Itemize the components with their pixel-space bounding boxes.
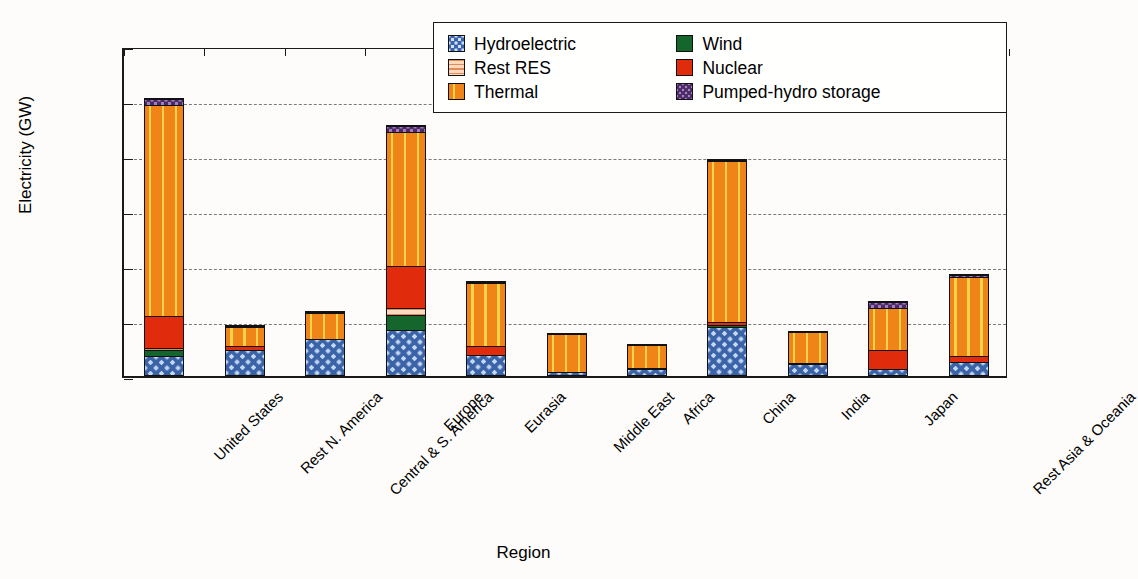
x-axis-label: Region	[0, 543, 1047, 563]
x-tick-mark	[285, 49, 286, 56]
x-tick-mark	[1009, 49, 1010, 56]
legend-swatch-wind	[676, 32, 702, 56]
legend-row: Rest RES Nuclear	[448, 56, 996, 80]
legend-swatch-thermal	[448, 80, 474, 104]
bar-segment-hydroelectric	[387, 330, 425, 375]
bar-segment-nuclear	[869, 350, 907, 370]
bar-segment-hydroelectric	[145, 356, 183, 375]
legend-label-wind: Wind	[702, 32, 996, 56]
bar-segment-thermal	[306, 313, 344, 338]
legend-swatch-nuclear	[676, 56, 702, 80]
bar[interactable]	[949, 274, 989, 376]
legend-label-rest-res: Rest RES	[474, 56, 642, 80]
category-label: Rest Asia & Oceania	[1029, 388, 1138, 497]
category-label: Rest N. America	[296, 388, 385, 477]
x-tick-mark	[365, 49, 366, 56]
bar-segment-hydroelectric	[306, 339, 344, 375]
y-tick-mark	[124, 324, 133, 325]
legend-label-hydroelectric: Hydroelectric	[474, 32, 642, 56]
bar[interactable]	[868, 301, 908, 376]
category-label: China	[759, 388, 799, 428]
category-label: Middle East	[609, 388, 676, 455]
bar[interactable]	[627, 344, 667, 376]
bar-segment-thermal	[950, 277, 988, 355]
gridline	[124, 269, 1006, 270]
legend-gap	[642, 56, 676, 80]
y-axis-label: Electricity (GW)	[16, 96, 36, 214]
bar-segment-wind	[387, 315, 425, 330]
y-tick-mark	[124, 269, 133, 270]
bar[interactable]	[144, 98, 184, 376]
y-tick-mark	[124, 214, 133, 215]
category-label: Japan	[920, 388, 961, 429]
category-label: Eurasia	[521, 388, 569, 436]
bar-segment-hydroelectric	[950, 362, 988, 375]
bar-segment-thermal	[387, 132, 425, 266]
bar-segment-nuclear	[387, 266, 425, 308]
gridline	[124, 159, 1006, 160]
legend-swatch-hydroelectric	[448, 32, 474, 56]
bar-segment-thermal	[708, 161, 746, 322]
bar-segment-thermal	[628, 345, 666, 368]
category-label: United States	[211, 388, 287, 464]
bar-segment-hydroelectric	[628, 369, 666, 375]
bar-segment-hydroelectric	[708, 327, 746, 375]
legend-label-nuclear: Nuclear	[702, 56, 996, 80]
bar[interactable]	[466, 281, 506, 376]
bar-segment-hydroelectric	[467, 355, 505, 375]
bar[interactable]	[547, 333, 587, 376]
x-tick-mark	[124, 49, 125, 56]
bar-segment-thermal	[145, 105, 183, 317]
bar-segment-hydroelectric	[548, 372, 586, 375]
bar[interactable]	[305, 311, 345, 376]
bar[interactable]	[707, 159, 747, 376]
legend-row: Hydroelectric Wind	[448, 32, 996, 56]
legend-table: Hydroelectric Wind Rest RES Nuclear Ther…	[448, 32, 996, 104]
legend-label-thermal: Thermal	[474, 80, 642, 104]
legend-label-pumped-hydro-storage: Pumped-hydro storage	[702, 80, 996, 104]
bar[interactable]	[386, 125, 426, 376]
legend-row: Thermal Pumped-hydro storage	[448, 80, 996, 104]
bar-segment-nuclear	[467, 346, 505, 356]
legend-swatch-rest-res	[448, 56, 474, 80]
y-tick-mark	[124, 159, 133, 160]
legend-gap	[642, 80, 676, 104]
y-tick-mark	[124, 104, 133, 105]
bar-segment-thermal	[789, 332, 827, 363]
bar-segment-nuclear	[145, 316, 183, 347]
bar-segment-hydroelectric	[226, 350, 264, 375]
bar-segment-thermal	[548, 334, 586, 373]
bar[interactable]	[788, 331, 828, 376]
y-tick-mark	[124, 49, 133, 50]
category-label: Africa	[678, 388, 717, 427]
chart-legend: Hydroelectric Wind Rest RES Nuclear Ther…	[433, 22, 1007, 113]
gridline	[124, 214, 1006, 215]
bar-segment-rest-res	[387, 308, 425, 315]
x-tick-mark	[204, 49, 205, 56]
bar-segment-thermal	[869, 308, 907, 349]
bar-segment-hydroelectric	[789, 364, 827, 375]
legend-swatch-pumped-hydro-storage	[676, 80, 702, 104]
bar-segment-thermal	[226, 327, 264, 345]
legend-gap	[642, 32, 676, 56]
bar[interactable]	[225, 325, 265, 376]
bar-segment-hydroelectric	[869, 369, 907, 375]
y-tick-mark	[124, 379, 133, 380]
category-label: India	[837, 388, 872, 423]
bar-segment-thermal	[467, 283, 505, 345]
